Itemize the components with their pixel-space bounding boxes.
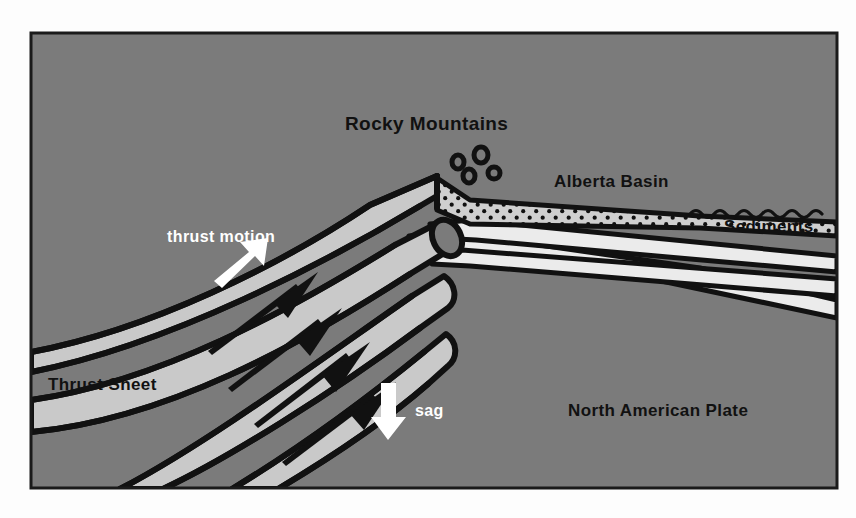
cross-section-canvas: Rocky Mountains Alberta Basin Sediments …: [0, 0, 856, 518]
geologic-cross-section-figure: Rocky Mountains Alberta Basin Sediments …: [0, 0, 856, 518]
label-alberta-basin: Alberta Basin: [554, 172, 669, 191]
label-thrust-sheet: Thrust Sheet: [48, 375, 157, 394]
label-rocky-mountains: Rocky Mountains: [345, 113, 508, 134]
diagram-body: Rocky Mountains Alberta Basin Sediments …: [31, 33, 837, 489]
label-sag: sag: [415, 402, 444, 419]
label-thrust-motion: thrust motion: [167, 228, 275, 245]
label-north-american-plate: North American Plate: [568, 401, 748, 420]
label-sediments: Sediments: [724, 217, 814, 236]
